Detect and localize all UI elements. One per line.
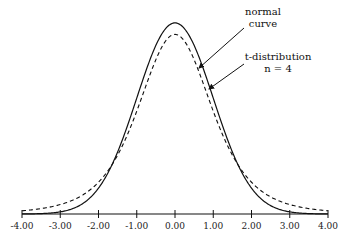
x-tick-label: 0.00 — [165, 221, 185, 231]
x-tick-label: -4.00 — [10, 221, 33, 231]
x-axis-ticks: -4.00-3.00-2.00-1.000.001.002.003.004.00 — [10, 210, 338, 231]
x-tick-label: 3.00 — [280, 221, 300, 231]
annotation-normal-line2: curve — [249, 18, 277, 29]
x-tick-label: -3.00 — [49, 221, 72, 231]
x-tick-label: -1.00 — [125, 221, 148, 231]
annotation-t-line2: n = 4 — [264, 63, 292, 74]
x-tick-label: 2.00 — [241, 221, 261, 231]
annotation-normal-line1: normal — [245, 6, 281, 17]
x-tick-label: -2.00 — [87, 221, 110, 231]
annotation-t: t-distribution n = 4 — [209, 51, 312, 89]
arrow-normal — [199, 28, 244, 68]
x-tick-label: 1.00 — [203, 221, 223, 231]
arrow-t — [209, 64, 244, 89]
distribution-chart: -4.00-3.00-2.00-1.000.001.002.003.004.00… — [0, 0, 350, 243]
x-tick-label: 4.00 — [318, 221, 338, 231]
annotation-t-line1: t-distribution — [245, 51, 312, 62]
